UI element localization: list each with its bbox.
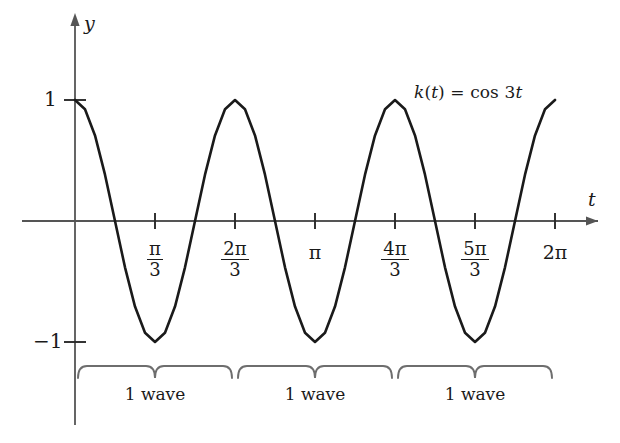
x-tick-label-4pi-over-3: 4π 3 — [373, 240, 417, 280]
fraction-numerator: 4π — [381, 240, 408, 260]
function-name: k — [414, 82, 424, 102]
paren-close: ) — [438, 82, 445, 102]
fraction-2pi-over-3: 2π 3 — [221, 240, 248, 280]
x-tick-label-pi: π — [296, 243, 334, 262]
fraction-numerator: π — [147, 240, 163, 260]
equals-cos-3: = cos 3 — [445, 82, 516, 102]
braces-layer — [78, 366, 552, 378]
y-axis-arrowhead — [70, 13, 79, 26]
y-tick-label-minus-1: −1 — [33, 331, 62, 351]
fraction-denominator: 3 — [221, 260, 248, 279]
fraction-denominator: 3 — [147, 260, 163, 279]
fraction-pi-over-3: π 3 — [147, 240, 163, 280]
fraction-numerator: 2π — [221, 240, 248, 260]
fraction-numerator: 5π — [461, 240, 488, 260]
fraction-denominator: 3 — [461, 260, 488, 279]
plot-svg — [0, 0, 620, 443]
x-tick-label-pi-over-3: π 3 — [135, 240, 175, 280]
x-tick-label-5pi-over-3: 5π 3 — [453, 240, 497, 280]
y-tick-label-1: 1 — [44, 89, 57, 109]
brace-label-3: 1 wave — [435, 386, 515, 403]
x-tick-label-2pi: 2π — [536, 243, 574, 262]
fraction-4pi-over-3: 4π 3 — [381, 240, 408, 280]
function-annotation: k(t) = cos 3t — [414, 84, 522, 101]
figure-canvas: y t 1 −1 π 3 2π 3 π 4π 3 5π 3 2π k(t) = … — [0, 0, 620, 443]
axes-layer — [22, 13, 598, 425]
y-axis-label: y — [84, 14, 95, 33]
fraction-denominator: 3 — [381, 260, 408, 279]
brace-label-1: 1 wave — [115, 386, 195, 403]
variable-t-body: t — [515, 82, 522, 102]
brace-1 — [78, 366, 232, 378]
x-axis-arrowhead — [586, 216, 598, 225]
brace-3 — [398, 366, 552, 378]
x-tick-label-2pi-over-3: 2π 3 — [213, 240, 257, 280]
brace-2 — [238, 366, 392, 378]
x-axis-label: t — [588, 190, 596, 209]
brace-label-2: 1 wave — [275, 386, 355, 403]
fraction-5pi-over-3: 5π 3 — [461, 240, 488, 280]
